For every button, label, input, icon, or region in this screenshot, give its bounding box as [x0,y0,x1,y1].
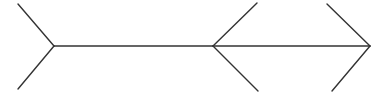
muller-lyer-diagram [0,0,385,98]
left-fin-bottom [18,46,54,89]
right-fin-bottom [332,46,370,91]
right-fin-top [327,4,370,46]
left-fin-top [18,4,54,46]
fin-lines [18,3,370,91]
middle-fin-top [213,3,257,46]
middle-fin-bottom [213,46,258,91]
